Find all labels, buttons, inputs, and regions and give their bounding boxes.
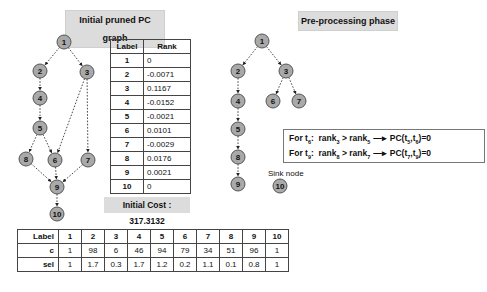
selectivity-cell: 51 [220,244,243,258]
left-node-3: 3 [80,65,94,79]
rule-2: For t9: rank8 > rank7—▸PC(t7,t9)=0 [289,146,431,160]
left-edge-3-7 [87,79,88,152]
selectivity-cell: 96 [243,244,266,258]
selectivity-cell: 6 [105,244,128,258]
selectivity-cell: 1 [59,230,82,244]
rank-table-row: 80.0176 [111,152,191,166]
row-header: Label [18,230,59,244]
right-node-7: 7 [292,94,306,108]
selectivity-cell: 0.1 [220,258,243,272]
selectivity-cell: 2 [82,230,105,244]
right-edge-1-2 [243,46,258,64]
rank-label-cell: 6 [111,124,144,138]
selectivity-cell: 1 [266,244,289,258]
rank-value-cell: -0.0029 [144,138,191,152]
selectivity-table: Label12345678910c19864694793451961sel11.… [17,229,289,272]
right-node-4: 4 [231,94,245,108]
left-node-1: 1 [57,35,71,49]
rank-label-cell: 1 [111,54,144,68]
left-node-7: 7 [81,153,95,167]
rank-label-cell: 2 [111,68,144,82]
selectivity-cell: 1 [59,258,82,272]
selectivity-cell: 4 [128,230,151,244]
svg-text:1: 1 [260,37,265,46]
svg-text:10: 10 [276,182,285,191]
rank-table-row: 5-0.0021 [111,110,191,124]
svg-text:8: 8 [24,155,29,164]
rules-box: For t6: rank3 > rank5—▸PC(t5,t6)=0 For t… [283,129,485,163]
selectivity-cell: 8 [220,230,243,244]
svg-text:4: 4 [236,97,241,106]
selectivity-cell: 9 [243,230,266,244]
selectivity-cell: 0.3 [105,258,128,272]
left-edge-8-9 [31,164,51,182]
right-node-3: 3 [279,64,293,78]
rank-label-cell: 3 [111,82,144,96]
rule-1: For t6: rank3 > rank5—▸PC(t5,t6)=0 [289,131,431,145]
left-edge-6-9 [56,167,57,179]
selectivity-cell: 1.7 [128,258,151,272]
left-node-5: 5 [33,121,47,135]
rank-label-cell: 5 [111,110,144,124]
header-label: Label [111,40,144,54]
svg-text:9: 9 [236,180,241,189]
selectivity-cell: 98 [82,244,105,258]
selectivity-cell: 0.8 [243,258,266,272]
rank-label-cell: 8 [111,152,144,166]
initial-cost: Initial Cost : 317.3132 [104,197,190,213]
selectivity-cell: 10 [266,230,289,244]
selectivity-cell: 1 [266,258,289,272]
left-edge-5-8 [29,134,37,151]
rank-label-cell: 9 [111,166,144,180]
rank-label-cell: 10 [111,180,144,194]
header-rank: Rank [144,40,191,54]
svg-text:9: 9 [55,183,60,192]
selectivity-cell: 5 [151,230,174,244]
row-header: c [18,244,59,258]
svg-text:2: 2 [236,67,241,76]
left-edge-1-2 [45,47,59,64]
left-node-6: 6 [48,153,62,167]
left-node-8: 8 [19,152,33,166]
left-edge-7-9 [63,165,83,182]
selectivity-cell: 3 [105,230,128,244]
svg-text:7: 7 [297,97,302,106]
left-node-2: 2 [33,64,47,78]
rank-value-cell: 0.0176 [144,152,191,166]
rank-table-row: 10 [111,54,191,68]
selectivity-cell: 79 [174,244,197,258]
selectivity-cell: 1.1 [197,258,220,272]
rank-table-row: 100 [111,180,191,194]
rank-table-row: 2-0.0071 [111,68,191,82]
left-edge-5-6 [43,134,52,152]
selectivity-cell: 46 [128,244,151,258]
right-node-6: 6 [266,94,280,108]
selectivity-cell: 0.2 [174,258,197,272]
rank-label-cell: 7 [111,138,144,152]
selectivity-cell: 1.7 [82,258,105,272]
selectivity-cell: 6 [174,230,197,244]
left-edge-1-3 [68,48,82,66]
rank-value-cell: -0.0071 [144,68,191,82]
left-graph-nodes: 12345867910 [19,35,95,221]
rank-table-row: 60.0101 [111,124,191,138]
rank-table: Label Rank 102-0.007130.11674-0.01525-0.… [110,39,191,194]
left-node-9: 9 [50,180,64,194]
svg-text:8: 8 [236,153,241,162]
svg-text:3: 3 [85,68,90,77]
rank-value-cell: 0.0021 [144,166,191,180]
svg-text:5: 5 [38,124,43,133]
rank-table-header: Label Rank [111,40,191,54]
selectivity-row-sel: sel11.70.31.71.20.21.10.10.81 [18,258,289,272]
rank-value-cell: -0.0021 [144,110,191,124]
svg-text:4: 4 [38,94,43,103]
svg-text:7: 7 [86,156,91,165]
svg-text:3: 3 [284,67,289,76]
selectivity-cell: 1.2 [151,258,174,272]
rank-table-row: 90.0021 [111,166,191,180]
rank-label-cell: 4 [111,96,144,110]
svg-text:1: 1 [62,38,67,47]
svg-text:6: 6 [53,156,58,165]
rank-value-cell: 0.0101 [144,124,191,138]
right-node-10: 10 [273,179,287,193]
